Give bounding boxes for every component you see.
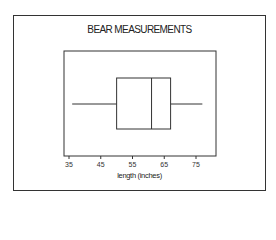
x-tick-label: 45 bbox=[97, 161, 105, 168]
x-tick-label: 75 bbox=[192, 161, 200, 168]
x-tick-label: 35 bbox=[65, 161, 73, 168]
x-tick-label: 55 bbox=[129, 161, 137, 168]
x-axis-ticks: 3545556575 bbox=[65, 156, 200, 168]
x-axis-label: length (inches) bbox=[13, 171, 266, 180]
x-tick-label: 65 bbox=[160, 161, 168, 168]
iqr-box bbox=[117, 78, 171, 129]
